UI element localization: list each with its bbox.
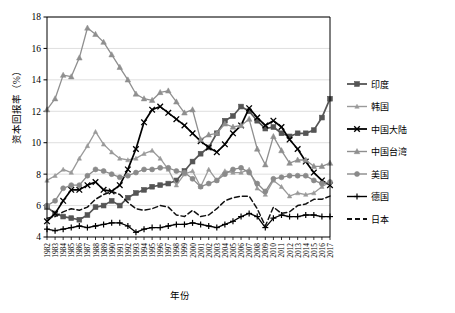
y-axis-title: 资本回报率（%）	[9, 65, 23, 145]
legend-label: 中国台湾	[371, 146, 407, 157]
x-axis-ticks: 1982198319841985198619871988198919901991…	[43, 237, 335, 258]
x-tick-label: 2017	[326, 243, 335, 258]
legend-item-1[interactable]: 韩国	[347, 101, 389, 112]
y-tick-label: 8	[36, 170, 41, 180]
legend-label: 日本	[371, 214, 389, 225]
y-tick-label: 16	[32, 44, 42, 54]
y-tick-label: 6	[36, 201, 41, 211]
legend-label: 美国	[371, 169, 389, 180]
axis-lines	[47, 17, 330, 237]
legend-label: 中国大陆	[371, 124, 407, 135]
legend-item-0[interactable]: 印度	[347, 79, 389, 90]
capital-return-rate-line-chart: 4681012141618 19821983198419851986198719…	[0, 0, 455, 313]
legend-label: 印度	[371, 79, 389, 90]
y-tick-label: 4	[36, 232, 41, 242]
chart-canvas: 4681012141618 19821983198419851986198719…	[0, 0, 455, 313]
series-6	[47, 191, 330, 226]
y-tick-label: 14	[32, 75, 42, 85]
legend-item-4[interactable]: 美国	[347, 169, 389, 180]
data-series-layer	[44, 25, 333, 235]
series-0	[45, 96, 333, 222]
series-4	[45, 165, 333, 208]
legend-item-6[interactable]: 日本	[347, 214, 389, 225]
y-tick-label: 12	[32, 107, 42, 117]
legend-item-3[interactable]: 中国台湾	[347, 146, 407, 157]
legend-item-2[interactable]: 中国大陆	[347, 124, 407, 135]
legend-item-5[interactable]: 德国	[347, 191, 389, 202]
legend: 印度韩国中国大陆中国台湾美国德国日本	[347, 79, 407, 225]
x-axis-title: 年份	[120, 288, 240, 302]
legend-label: 德国	[371, 191, 389, 202]
legend-label: 韩国	[371, 101, 389, 112]
y-tick-label: 18	[32, 12, 42, 22]
y-tick-label: 10	[32, 138, 42, 148]
